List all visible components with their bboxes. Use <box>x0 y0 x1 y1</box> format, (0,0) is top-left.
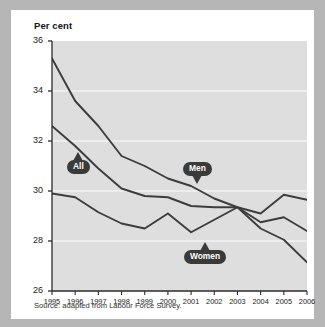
series-lines-group <box>52 59 307 263</box>
callout-women: Women <box>184 250 226 264</box>
callout-men: Men <box>183 162 212 176</box>
y-tick-label: 30 <box>23 185 43 195</box>
figure-container: Per cent 262830323436 199519961997199819… <box>0 0 325 327</box>
y-tick-label: 26 <box>23 285 43 295</box>
source-note: Source: adapted from Labour Force Survey… <box>34 301 182 310</box>
y-tick-label: 36 <box>23 35 43 45</box>
x-tick-label: 2006 <box>292 297 322 306</box>
axis-title-percent: Per cent <box>34 20 72 31</box>
series-line-women <box>52 194 307 263</box>
callout-pointer-icon <box>200 242 210 251</box>
chart-card: Per cent 262830323436 199519961997199819… <box>11 10 314 319</box>
callout-label: All <box>73 161 84 171</box>
y-tick-label: 34 <box>23 85 43 95</box>
y-tick-label: 28 <box>23 235 43 245</box>
plot-svg <box>52 41 307 291</box>
callout-pointer-icon <box>192 175 202 184</box>
series-line-men <box>52 59 307 214</box>
series-line-all <box>52 126 307 231</box>
callout-all: All <box>67 160 90 174</box>
callout-label: Women <box>190 251 220 261</box>
plot-area <box>52 41 307 291</box>
callout-pointer-icon <box>73 152 83 161</box>
callout-label: Men <box>189 163 206 173</box>
gridlines-group <box>52 91 307 241</box>
y-tick-label: 32 <box>23 135 43 145</box>
